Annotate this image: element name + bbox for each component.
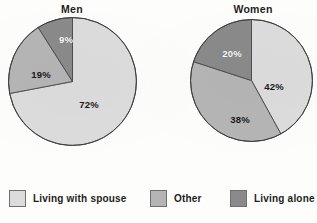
legend-label-living-alone: Living alone (254, 193, 315, 204)
legend-item-living-alone: Living alone (230, 190, 315, 207)
slice-value-men-1: 19% (31, 69, 51, 80)
legend: Living with spouse Other Living alone (0, 185, 317, 223)
pie-chart-men: 72% 19% 9% (7, 16, 138, 147)
slice-value-women-0: 42% (264, 81, 284, 92)
pie-women-svg (189, 18, 314, 143)
slice-value-women-1: 38% (230, 114, 250, 125)
legend-swatch-other (150, 190, 167, 207)
pie-chart-women: 42% 38% 20% (189, 18, 314, 143)
chart-title-women: Women (233, 3, 272, 15)
legend-label-living-with-spouse: Living with spouse (33, 193, 127, 204)
legend-item-living-with-spouse: Living with spouse (9, 190, 127, 207)
legend-label-other: Other (174, 193, 202, 204)
slice-value-men-0: 72% (79, 99, 99, 110)
pie-chart-figure: Men Women 72% 19% 9% 42% 38% 20% Living … (0, 0, 317, 223)
chart-title-men: Men (61, 3, 83, 15)
slice-value-women-2: 20% (222, 48, 242, 59)
legend-item-other: Other (150, 190, 202, 207)
slice-value-men-2: 9% (59, 34, 73, 45)
legend-swatch-living-alone (230, 190, 247, 207)
legend-swatch-living-with-spouse (9, 190, 26, 207)
